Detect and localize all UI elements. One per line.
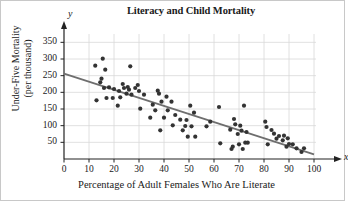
data-point bbox=[286, 136, 290, 140]
data-point bbox=[242, 104, 246, 108]
data-point bbox=[178, 118, 182, 122]
x-tick-label: 70 bbox=[229, 164, 249, 174]
data-point bbox=[181, 128, 185, 132]
data-point bbox=[263, 120, 267, 124]
data-point bbox=[101, 57, 105, 61]
data-point bbox=[231, 145, 235, 149]
data-point bbox=[171, 123, 175, 127]
data-point bbox=[162, 116, 166, 120]
y-tick-label: 300 bbox=[33, 53, 57, 63]
data-point bbox=[116, 104, 120, 108]
y-axis-arrow bbox=[61, 21, 67, 29]
y-tick-label: 50 bbox=[33, 136, 57, 146]
data-points bbox=[93, 57, 306, 155]
y-axis-symbol: y bbox=[68, 8, 72, 19]
data-point bbox=[104, 96, 108, 100]
data-point bbox=[94, 98, 98, 102]
data-point bbox=[121, 82, 125, 86]
y-tick-label: 250 bbox=[33, 70, 57, 80]
data-point bbox=[193, 135, 197, 139]
data-point bbox=[112, 87, 116, 91]
data-point bbox=[192, 111, 196, 115]
data-point bbox=[272, 132, 276, 136]
data-point bbox=[266, 142, 270, 146]
data-point bbox=[237, 142, 241, 146]
data-point bbox=[148, 116, 152, 120]
data-point bbox=[281, 138, 285, 142]
y-tick-label: 350 bbox=[33, 36, 57, 46]
data-point bbox=[269, 128, 273, 132]
data-point bbox=[129, 93, 133, 97]
x-tick-label: 20 bbox=[104, 164, 124, 174]
data-point bbox=[122, 86, 126, 90]
x-tick-label: 50 bbox=[179, 164, 199, 174]
data-point bbox=[244, 130, 248, 134]
data-point bbox=[153, 108, 157, 112]
data-point bbox=[239, 129, 243, 133]
data-point bbox=[299, 150, 303, 154]
tick-marks bbox=[61, 42, 315, 162]
data-point bbox=[264, 125, 268, 129]
data-point bbox=[218, 141, 222, 145]
data-point bbox=[151, 103, 155, 107]
data-point bbox=[208, 120, 212, 124]
y-tick-label: 100 bbox=[33, 120, 57, 130]
data-point bbox=[233, 122, 237, 126]
data-point bbox=[93, 64, 97, 68]
data-point bbox=[117, 89, 121, 93]
data-point bbox=[294, 146, 298, 150]
x-tick-label: 40 bbox=[154, 164, 174, 174]
data-point bbox=[287, 142, 291, 146]
data-point bbox=[159, 100, 163, 104]
x-tick-label: 100 bbox=[304, 164, 324, 174]
data-point bbox=[291, 142, 295, 146]
data-point bbox=[188, 104, 192, 108]
data-point bbox=[282, 134, 286, 138]
data-point bbox=[173, 113, 177, 117]
data-point bbox=[107, 85, 111, 89]
data-point bbox=[302, 146, 306, 150]
data-point bbox=[142, 93, 146, 97]
x-tick-label: 0 bbox=[54, 164, 74, 174]
data-point bbox=[127, 88, 131, 92]
data-point bbox=[124, 92, 128, 96]
data-point bbox=[118, 95, 122, 99]
data-point bbox=[186, 135, 190, 139]
data-point bbox=[111, 96, 115, 100]
data-point bbox=[137, 89, 141, 93]
data-point bbox=[277, 134, 281, 138]
data-point bbox=[103, 68, 107, 72]
x-tick-label: 10 bbox=[79, 164, 99, 174]
data-point bbox=[166, 108, 170, 112]
data-point bbox=[238, 124, 242, 128]
data-point bbox=[217, 105, 221, 109]
data-point bbox=[138, 107, 142, 111]
data-point bbox=[183, 124, 187, 128]
gridlines bbox=[64, 34, 316, 159]
data-point bbox=[99, 77, 103, 81]
x-tick-label: 60 bbox=[204, 164, 224, 174]
data-point bbox=[246, 141, 250, 145]
data-point bbox=[189, 124, 193, 128]
data-point bbox=[204, 124, 208, 128]
data-point bbox=[228, 128, 232, 132]
data-point bbox=[158, 128, 162, 132]
x-tick-label: 80 bbox=[254, 164, 274, 174]
data-point bbox=[157, 92, 161, 96]
x-axis-symbol: x bbox=[344, 151, 348, 162]
x-axis-arrow bbox=[334, 156, 342, 162]
data-point bbox=[236, 132, 240, 136]
data-point bbox=[241, 147, 245, 151]
data-point bbox=[169, 100, 173, 104]
y-tick-label: 200 bbox=[33, 86, 57, 96]
x-tick-label: 90 bbox=[279, 164, 299, 174]
data-point bbox=[184, 118, 188, 122]
data-point bbox=[102, 86, 106, 90]
x-tick-label: 30 bbox=[129, 164, 149, 174]
y-tick-label: 150 bbox=[33, 103, 57, 113]
data-point bbox=[136, 83, 140, 87]
data-point bbox=[98, 80, 102, 84]
data-point bbox=[128, 64, 132, 68]
data-point bbox=[164, 95, 168, 99]
